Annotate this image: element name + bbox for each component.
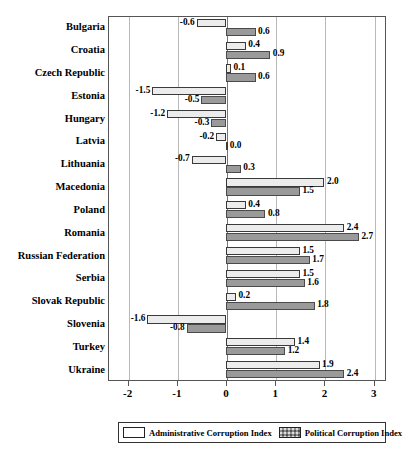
- x-tick: [275, 381, 276, 386]
- x-tick-label: 0: [223, 387, 229, 399]
- x-tick: [177, 381, 178, 386]
- bar-row: Estonia-1.5-0.5: [108, 84, 386, 107]
- category-label-serbia: Serbia: [4, 273, 105, 284]
- bar-admin: [216, 133, 226, 141]
- x-tick: [128, 381, 129, 386]
- category-label-turkey: Turkey: [4, 342, 105, 353]
- bar-value-label: -1.5: [132, 86, 150, 95]
- bar-admin: [226, 224, 344, 232]
- bar-value-label: 1.9: [322, 360, 334, 369]
- bar-value-label: 1.7: [312, 255, 324, 264]
- bar-admin: [226, 64, 231, 72]
- bar-political: [187, 324, 226, 332]
- bar-value-label: 2.4: [347, 223, 359, 232]
- category-label-estonia: Estonia: [4, 91, 105, 102]
- legend-item-admin: Administrative Corruption Index: [123, 427, 272, 438]
- bar-value-label: 1.8: [317, 300, 329, 309]
- bar-row: Serbia1.51.6: [108, 267, 386, 290]
- category-label-macedonia: Macedonia: [4, 182, 105, 193]
- bar-row: Russian Federation1.51.7: [108, 244, 386, 267]
- bar-row: Macedonia2.01.5: [108, 176, 386, 199]
- x-tick: [324, 381, 325, 386]
- bar-row: Slovenia-1.6-0.8: [108, 313, 386, 336]
- bar-value-label: 0.1: [234, 63, 246, 72]
- bar-political: [226, 210, 265, 218]
- bar-admin: [226, 293, 236, 301]
- bar-value-label: -0.6: [177, 18, 195, 27]
- bar-value-label: 0.2: [238, 291, 250, 300]
- bar-admin: [226, 201, 246, 209]
- x-tick: [374, 381, 375, 386]
- bar-value-label: 1.4: [297, 337, 309, 346]
- bar-political: [226, 142, 228, 150]
- bar-value-label: 0.3: [243, 163, 255, 172]
- bar-political: [226, 279, 305, 287]
- bar-value-label: 0.8: [268, 209, 280, 218]
- bar-value-label: 0.6: [258, 72, 270, 81]
- category-label-bulgaria: Bulgaria: [4, 22, 105, 33]
- x-tick: [226, 381, 227, 386]
- bar-admin: [192, 156, 226, 164]
- bar-value-label: -0.2: [196, 132, 214, 141]
- x-tick-label: 2: [322, 387, 328, 399]
- bar-value-label: -0.5: [181, 95, 199, 104]
- bar-value-label: 0.0: [230, 141, 242, 150]
- bar-rows-container: Bulgaria-0.60.6Croatia0.40.9Czech Republ…: [108, 16, 386, 381]
- bar-value-label: -1.2: [147, 109, 165, 118]
- bar-admin: [226, 247, 300, 255]
- bar-admin: [226, 270, 300, 278]
- bar-value-label: 1.2: [288, 346, 300, 355]
- legend-label: Political Corruption Index: [305, 428, 402, 438]
- corruption-index-chart: Bulgaria-0.60.6Croatia0.40.9Czech Republ…: [0, 0, 414, 453]
- bar-political: [226, 256, 310, 264]
- bar-political: [226, 165, 241, 173]
- bar-value-label: 0.4: [248, 40, 260, 49]
- bar-row: Lithuania-0.70.3: [108, 153, 386, 176]
- bar-political: [226, 233, 359, 241]
- bar-value-label: 1.6: [307, 278, 319, 287]
- bar-political: [211, 119, 226, 127]
- bar-value-label: -1.6: [127, 314, 145, 323]
- x-axis: -2-10123: [108, 381, 386, 405]
- category-label-lithuania: Lithuania: [4, 159, 105, 170]
- bar-admin: [226, 42, 246, 50]
- bar-row: Croatia0.40.9: [108, 39, 386, 62]
- bar-value-label: 0.6: [258, 27, 270, 36]
- bar-row: Czech Republic0.10.6: [108, 62, 386, 85]
- category-label-slovenia: Slovenia: [4, 319, 105, 330]
- legend-swatch-admin: [123, 427, 145, 438]
- bar-political: [201, 96, 226, 104]
- bar-political: [226, 51, 270, 59]
- x-tick-label: 1: [273, 387, 279, 399]
- bar-value-label: 2.0: [327, 177, 339, 186]
- bar-row: Turkey1.41.2: [108, 335, 386, 358]
- category-label-hungary: Hungary: [4, 114, 105, 125]
- bar-value-label: 2.7: [361, 232, 373, 241]
- bar-admin: [226, 338, 295, 346]
- bar-row: Latvia-0.20.0: [108, 130, 386, 153]
- bar-row: Poland0.40.8: [108, 199, 386, 222]
- x-tick-label: -1: [172, 387, 181, 399]
- legend-label: Administrative Corruption Index: [149, 428, 272, 438]
- category-label-latvia: Latvia: [4, 136, 105, 147]
- category-label-russian-federation: Russian Federation: [4, 251, 105, 262]
- bar-political: [226, 73, 256, 81]
- bar-row: Romania2.42.7: [108, 221, 386, 244]
- bar-value-label: 2.4: [347, 369, 359, 378]
- bar-row: Hungary-1.2-0.3: [108, 107, 386, 130]
- bar-political: [226, 28, 256, 36]
- bar-value-label: 0.4: [248, 200, 260, 209]
- category-label-ukraine: Ukraine: [4, 365, 105, 376]
- bar-admin: [197, 19, 227, 27]
- category-label-romania: Romania: [4, 228, 105, 239]
- bar-row: Ukraine1.92.4: [108, 358, 386, 381]
- bar-admin: [147, 315, 226, 323]
- bar-admin: [226, 361, 319, 369]
- category-label-slovak-republic: Slovak Republic: [4, 296, 105, 307]
- category-label-czech-republic: Czech Republic: [4, 68, 105, 79]
- bar-political: [226, 187, 300, 195]
- x-tick-label: -2: [123, 387, 132, 399]
- bar-row: Bulgaria-0.60.6: [108, 16, 386, 39]
- bar-value-label: 0.9: [273, 49, 285, 58]
- legend-item-political: Political Corruption Index: [279, 427, 402, 438]
